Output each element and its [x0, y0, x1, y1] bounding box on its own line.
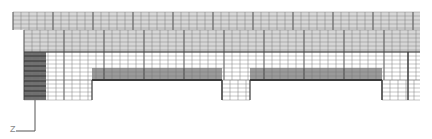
- gray-band-span-2: [250, 68, 382, 80]
- axis-label-z: Z: [10, 124, 16, 134]
- fe-mesh-diagram: [0, 0, 432, 139]
- gray-band-span-1: [92, 68, 222, 80]
- top-slab: [13, 12, 420, 30]
- upper-web: [24, 30, 420, 52]
